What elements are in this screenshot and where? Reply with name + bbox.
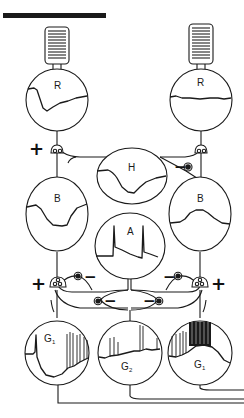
sign-plus-bipolar-right: + [211, 273, 226, 294]
bipolar-right-label: B [197, 193, 204, 204]
synapse-bipolar-right [192, 277, 208, 287]
bipolar-left-cell: B [26, 177, 88, 251]
bipolar-right-cell: B [169, 177, 231, 251]
ganglion-left-label: G [44, 333, 52, 344]
receptor-right-outer-segment [189, 24, 213, 69]
sign-minus-horizontal: − [174, 158, 187, 176]
ganglion-right-cell: G 1 [168, 321, 232, 385]
synapse-receptor-left [51, 145, 63, 153]
receptor-left-cell: R [26, 69, 88, 131]
synapse-bipolar-left [50, 277, 66, 287]
receptor-right-label: R [197, 77, 204, 88]
sign-minus-amacrine-left: − [104, 292, 117, 310]
receptor-right-cell: R [170, 69, 232, 131]
ganglion-middle-label: G [121, 361, 129, 372]
sign-minus-amacrine-right: − [143, 292, 156, 310]
bipolar-left-label: B [54, 193, 61, 204]
stimulus-bar [3, 13, 106, 18]
horizontal-label: H [128, 162, 135, 173]
horizontal-cell: H [97, 148, 167, 204]
ganglion-middle-cell: G 2 [98, 321, 162, 385]
amacrine-cell: A [95, 213, 165, 279]
amacrine-label: A [127, 226, 134, 237]
sign-minus-bipolar-right: − [163, 268, 176, 286]
synapse-receptor-right [195, 145, 207, 153]
retina-diagram: R R + − H B B A [0, 0, 244, 418]
receptor-left-label: R [54, 80, 61, 91]
receptor-left-outer-segment [45, 27, 69, 69]
sign-plus-bipolar-left: + [31, 273, 46, 294]
ganglion-left-cell: G 1 [25, 321, 89, 385]
sign-plus-receptor-left: + [29, 138, 44, 159]
ganglion-right-label: G [194, 359, 202, 370]
sign-minus-bipolar-left: − [84, 268, 97, 286]
